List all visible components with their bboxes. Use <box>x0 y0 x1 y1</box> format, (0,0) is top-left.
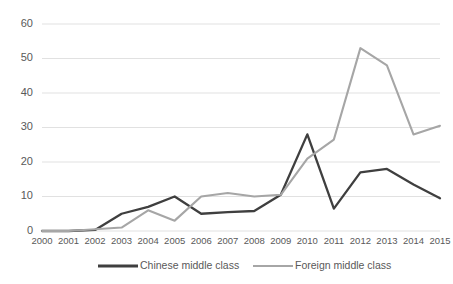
y-tick-label-10: 10 <box>21 189 33 201</box>
x-tick-label-2000: 2000 <box>31 235 52 246</box>
x-tick-label-2004: 2004 <box>138 235 159 246</box>
y-axis-tick-labels: 0102030405060 <box>21 17 33 236</box>
series-line-chinese-middle-class <box>42 134 440 231</box>
chart-legend: Chinese middle classForeign middle class <box>98 259 391 271</box>
x-tick-label-2010: 2010 <box>297 235 318 246</box>
chart-canvas: 0102030405060 20002001200220032004200520… <box>0 0 453 284</box>
x-tick-label-2005: 2005 <box>164 235 185 246</box>
data-series-group <box>42 48 440 231</box>
x-tick-label-2013: 2013 <box>376 235 397 246</box>
x-tick-label-2015: 2015 <box>429 235 450 246</box>
y-tick-label-30: 30 <box>21 120 33 132</box>
gridlines <box>42 24 440 231</box>
series-line-foreign-middle-class <box>42 48 440 231</box>
legend-label-1[interactable]: Foreign middle class <box>295 259 391 271</box>
x-tick-label-2007: 2007 <box>217 235 238 246</box>
legend-label-0[interactable]: Chinese middle class <box>140 259 239 271</box>
x-tick-label-2014: 2014 <box>403 235 424 246</box>
x-tick-label-2003: 2003 <box>111 235 132 246</box>
x-tick-label-2009: 2009 <box>270 235 291 246</box>
x-tick-label-2008: 2008 <box>244 235 265 246</box>
x-tick-label-2011: 2011 <box>324 235 344 246</box>
x-axis-tick-labels: 2000200120022003200420052006200720082009… <box>31 235 450 246</box>
y-tick-label-60: 60 <box>21 17 33 29</box>
y-tick-label-50: 50 <box>21 51 33 63</box>
x-tick-label-2012: 2012 <box>350 235 371 246</box>
x-tick-label-2002: 2002 <box>84 235 105 246</box>
line-chart: 0102030405060 20002001200220032004200520… <box>0 0 453 284</box>
y-tick-label-40: 40 <box>21 86 33 98</box>
y-tick-label-20: 20 <box>21 155 33 167</box>
x-tick-label-2001: 2001 <box>58 235 79 246</box>
x-tick-label-2006: 2006 <box>191 235 212 246</box>
